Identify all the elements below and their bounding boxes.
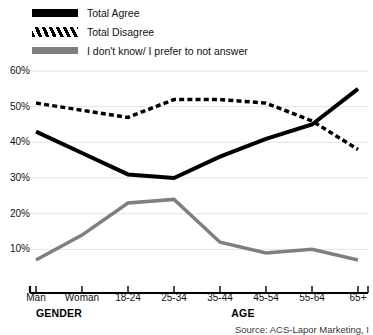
x-tick-label-18-24: 18-24 [115, 292, 141, 303]
dashed-black-line-swatch-icon [32, 27, 78, 37]
solid-black-line-swatch-icon [32, 9, 78, 17]
x-tick-label-25-34: 25-34 [161, 292, 187, 303]
series-line-1 [36, 89, 358, 178]
legend-item-dont-know: I don't know/ I prefer to not answer [32, 41, 362, 60]
solid-gray-line-swatch-icon [32, 47, 78, 54]
group-label-gender: GENDER [36, 307, 82, 319]
series-line-3 [36, 199, 358, 260]
chart-canvas [0, 62, 373, 294]
legend-item-total-agree: Total Agree [32, 3, 362, 22]
legend-label-total-agree: Total Agree [87, 7, 140, 19]
legend-item-total-disagree: Total Disagree [32, 22, 362, 41]
plot-area: 60%50%40%30%20%10% [0, 62, 373, 294]
x-tick-label-woman: Woman [65, 292, 99, 303]
x-tick-label-35-44: 35-44 [207, 292, 233, 303]
legend-label-dont-know: I don't know/ I prefer to not answer [87, 45, 248, 57]
x-tick-label-man: Man [26, 292, 45, 303]
legend-label-total-disagree: Total Disagree [87, 26, 154, 38]
chart-legend: Total Agree Total Disagree I don't know/… [32, 3, 362, 60]
x-tick-label-45-54: 45-54 [253, 292, 279, 303]
chart-figure: Total Agree Total Disagree I don't know/… [0, 0, 373, 335]
x-axis-group-labels: GENDERAGE [0, 307, 373, 323]
x-tick-label-55-64: 55-64 [299, 292, 325, 303]
x-tick-label-65-: 65+ [350, 292, 367, 303]
source-note: Source: ACS-Lapor Marketing, I [0, 324, 373, 335]
group-label-age: AGE [231, 307, 254, 319]
